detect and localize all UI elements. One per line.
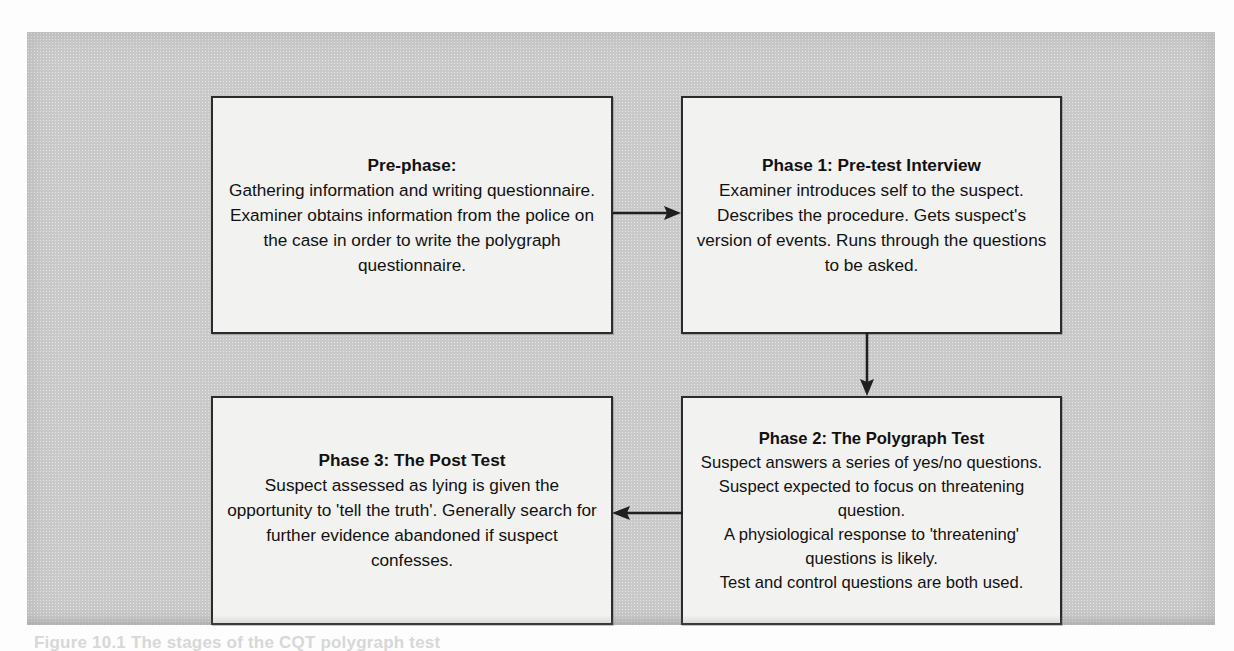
arrow-left-icon (611, 498, 683, 528)
flow-node-phase1[interactable]: Phase 1: Pre-test Interview Examiner int… (681, 96, 1062, 334)
arrow-down-icon (851, 332, 883, 398)
flow-node-prephase[interactable]: Pre-phase: Gathering information and wri… (211, 96, 613, 334)
connector-phase1-to-phase2 (851, 332, 883, 398)
scanned-page: Pre-phase: Gathering information and wri… (0, 0, 1234, 651)
figure-caption-ghost: Figure 10.1 The stages of the CQT polygr… (34, 633, 464, 651)
flow-node-phase3[interactable]: Phase 3: The Post Test Suspect assessed … (211, 396, 613, 625)
connector-prephase-to-phase1 (613, 198, 683, 228)
arrow-right-icon (613, 198, 683, 228)
flow-node-phase2-body: Suspect answers a series of yes/no quest… (693, 451, 1050, 595)
flow-node-prephase-title: Pre-phase: (368, 153, 457, 178)
connector-phase2-to-phase3 (611, 498, 683, 528)
flow-node-phase3-body: Suspect assessed as lying is given the o… (223, 473, 601, 573)
flow-node-phase2[interactable]: Phase 2: The Polygraph Test Suspect answ… (681, 396, 1062, 625)
flow-node-phase1-title: Phase 1: Pre-test Interview (762, 153, 981, 178)
flow-node-phase2-title: Phase 2: The Polygraph Test (759, 427, 985, 451)
figure-panel: Pre-phase: Gathering information and wri… (27, 32, 1215, 625)
flow-node-prephase-body: Gathering information and writing questi… (223, 178, 601, 278)
flow-node-phase1-body: Examiner introduces self to the suspect.… (693, 178, 1050, 278)
flow-node-phase3-title: Phase 3: The Post Test (319, 448, 506, 473)
